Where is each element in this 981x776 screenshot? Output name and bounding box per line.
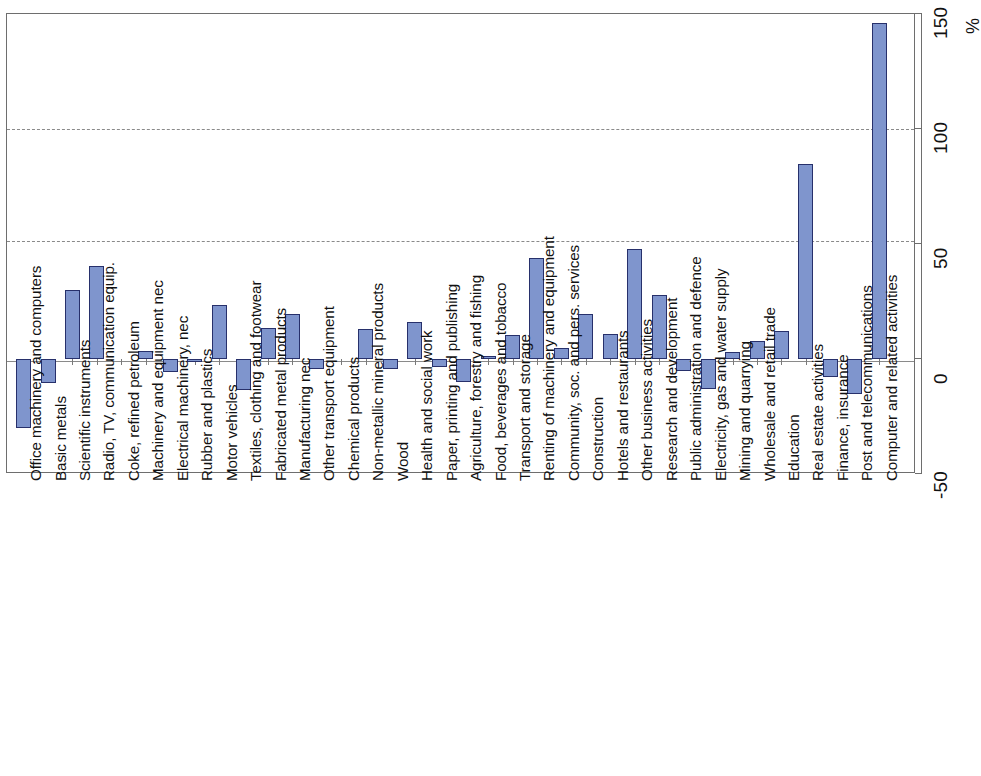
category-label: Electrical machinery, nec — [175, 316, 190, 481]
category-label: Other transport equipment — [321, 306, 336, 481]
category-label: Basic metals — [53, 396, 68, 481]
category-label: Public administration and defence — [688, 256, 703, 481]
category-label: Renting of machinery and equipment — [541, 236, 556, 481]
category-label: Real estate activities — [810, 344, 825, 481]
category-label: Community, soc. and pers. services — [566, 245, 581, 481]
category-label: Hotels and restaurants — [615, 330, 630, 481]
category-label: Post and telecommunications — [859, 285, 874, 481]
category-axis-labels: Office machinery and computersBasic meta… — [0, 0, 981, 776]
category-label: Construction — [590, 397, 605, 481]
category-label: Motor vehicles — [224, 384, 239, 481]
category-label: Transport and storage — [517, 334, 532, 481]
category-label: Other business activities — [639, 319, 654, 481]
category-label: Agriculture, forestry and fishing — [468, 275, 483, 481]
category-label: Textiles, clothing and footwear — [248, 281, 263, 481]
category-label: Chemical products — [346, 357, 361, 481]
category-label: Office machinery and computers — [28, 266, 43, 481]
category-label: Electricity, gas and water supply — [713, 268, 728, 481]
category-label: Research and development — [664, 298, 679, 481]
category-label: Radio, TV, communication equip. — [101, 262, 116, 481]
category-label: Non-metallic mineral products — [370, 283, 385, 481]
category-label: Scientific instruments — [77, 340, 92, 481]
category-label: Machinery and equipment nec — [150, 280, 165, 481]
category-label: Wholesale and retail trade — [762, 307, 777, 481]
category-label: Finance, insurance — [835, 354, 850, 481]
category-label: Computer and related activities — [884, 275, 899, 481]
category-label: Food, beverages and tobacco — [493, 283, 508, 481]
category-label: Mining and quarrying — [737, 341, 752, 481]
category-label: Fabricated metal products — [273, 308, 288, 481]
category-label: Health and social work — [419, 330, 434, 481]
category-label: Manufacturing nec — [297, 358, 312, 481]
category-label: Rubber and plastics — [199, 349, 214, 481]
category-label: Wood — [395, 442, 410, 481]
category-label: Paper, printing and publishing — [444, 284, 459, 481]
category-label: Coke, refined petroleum — [126, 321, 141, 481]
bar-chart-figure: -50050100150 % Office machinery and comp… — [0, 0, 981, 776]
category-label: Education — [786, 414, 801, 481]
